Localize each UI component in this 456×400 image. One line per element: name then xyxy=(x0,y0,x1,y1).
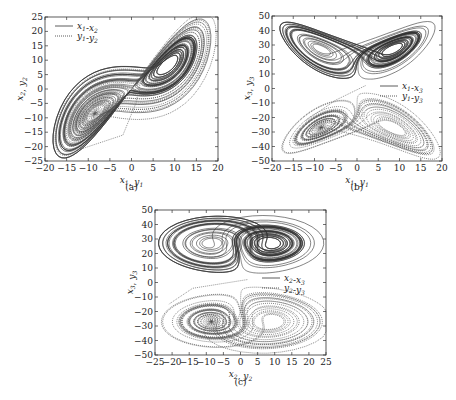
y-tick-label: 40 xyxy=(142,220,154,230)
y-tick-label: 50 xyxy=(142,205,154,215)
panel-a: −20−15−10−505101520−25−20−15−10−50510152… xyxy=(15,12,224,192)
y-tick-label: −40 xyxy=(134,336,153,346)
series-y1-y3 xyxy=(282,93,441,159)
x-tick-label: 5 xyxy=(375,163,381,173)
y-tick-label: 10 xyxy=(259,69,271,79)
y-axis-label: x3, y3 xyxy=(125,271,138,295)
series-x1-x3 xyxy=(280,22,435,80)
y-tick-label: 0 xyxy=(37,84,43,94)
x-tick-label: 0 xyxy=(129,163,135,173)
legend: x1-x3y1-y3 xyxy=(380,81,423,104)
y-tick-label: −25 xyxy=(24,156,43,166)
panel-c: −25−20−15−10−50510152025−50−40−30−20−100… xyxy=(125,205,332,387)
x-tick-label: −5 xyxy=(329,163,343,173)
x-tick-label: −10 xyxy=(79,163,98,173)
panel-caption: (b) xyxy=(351,182,364,192)
y-tick-label: 40 xyxy=(259,26,271,36)
x-tick-label: 10 xyxy=(269,357,281,367)
x-tick-label: 20 xyxy=(212,163,224,173)
y-tick-label: −10 xyxy=(251,98,270,108)
panel-b: −20−15−10−505101520−50−40−30−20−10010203… xyxy=(242,11,448,192)
y-tick-label: 50 xyxy=(259,11,271,21)
x-tick-label: 25 xyxy=(320,357,332,367)
y-tick-label: 20 xyxy=(142,249,154,259)
y-tick-label: 30 xyxy=(142,234,154,244)
y-tick-label: 0 xyxy=(147,278,153,288)
y-tick-label: 10 xyxy=(142,263,154,273)
x-tick-label: 15 xyxy=(415,163,427,173)
x-tick-label: −15 xyxy=(57,163,76,173)
y-tick-label: 15 xyxy=(32,41,44,51)
y-tick-label: −30 xyxy=(134,321,153,331)
y-axis-label: x3, y3 xyxy=(242,77,255,101)
y-tick-label: −15 xyxy=(24,127,43,137)
x-tick-label: 20 xyxy=(436,163,448,173)
x-tick-label: 10 xyxy=(394,163,406,173)
x-tick-label: 15 xyxy=(191,163,203,173)
transient-y2-y3 xyxy=(169,280,248,305)
y-tick-label: −20 xyxy=(134,307,153,317)
panel-caption: (a) xyxy=(125,182,137,192)
y-tick-label: −10 xyxy=(24,113,43,123)
legend: x1-x2y1-y2 xyxy=(55,21,98,44)
series-y2-y3 xyxy=(161,287,326,353)
panel-caption: (c) xyxy=(234,377,246,387)
x-tick-label: −5 xyxy=(103,163,117,173)
y-tick-label: −5 xyxy=(30,98,44,108)
x-tick-label: −5 xyxy=(217,357,231,367)
x-tick-label: 5 xyxy=(150,163,156,173)
y-tick-label: 5 xyxy=(37,70,43,80)
y-tick-label: 10 xyxy=(32,55,44,65)
y-tick-label: 0 xyxy=(264,84,270,94)
legend: x2-x3y2-y3 xyxy=(262,273,305,296)
y-tick-label: −20 xyxy=(251,113,270,123)
x-tick-label: −10 xyxy=(305,163,324,173)
y-tick-label: 20 xyxy=(259,55,271,65)
y-axis-label: x2, y2 xyxy=(15,77,28,101)
x-tick-label: 10 xyxy=(169,163,181,173)
y-tick-label: −50 xyxy=(134,350,153,360)
series-x2-x3 xyxy=(159,216,324,274)
x-tick-label: −15 xyxy=(284,163,303,173)
figure: −20−15−10−505101520−25−20−15−10−50510152… xyxy=(0,0,456,400)
x-tick-label: 0 xyxy=(354,163,360,173)
x-tick-label: 5 xyxy=(255,357,261,367)
x-tick-label: 0 xyxy=(238,357,244,367)
y-tick-label: −40 xyxy=(251,142,270,152)
x-tick-label: 20 xyxy=(303,357,315,367)
x-tick-label: 15 xyxy=(286,357,298,367)
y-tick-label: −20 xyxy=(24,142,43,152)
y-tick-label: −50 xyxy=(251,156,270,166)
y-tick-label: −10 xyxy=(134,292,153,302)
y-tick-label: 20 xyxy=(32,26,44,36)
x-tick-label: −10 xyxy=(197,357,216,367)
y-tick-label: −30 xyxy=(251,127,270,137)
y-tick-label: 25 xyxy=(32,12,44,22)
y-tick-label: 30 xyxy=(259,40,271,50)
